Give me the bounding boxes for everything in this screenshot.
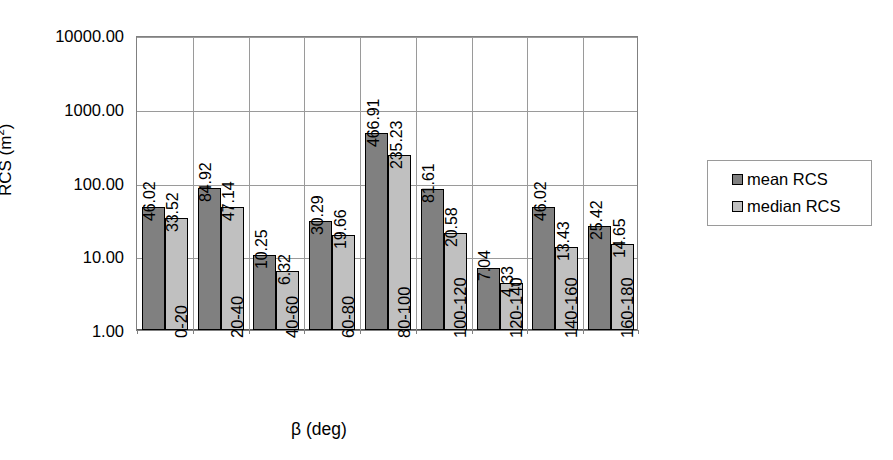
y-axis-tick-label: 1.00 — [92, 322, 124, 341]
bar-value-label: 84.92 — [197, 162, 215, 202]
x-axis-tick-mark — [527, 330, 528, 334]
x-axis-category-label: 140-160 — [562, 277, 581, 338]
gridline-vertical — [249, 37, 250, 330]
bar-value-label: 466.91 — [365, 99, 383, 147]
bar-value-label: 235.23 — [388, 121, 406, 169]
gridline-vertical — [304, 37, 305, 330]
bar-mean-rcs — [588, 226, 611, 330]
legend-label-mean-rcs: mean RCS — [747, 170, 828, 189]
bar-value-label: 46.02 — [532, 182, 550, 222]
legend-swatch-mean-rcs — [732, 174, 743, 185]
bar-value-label: 33.52 — [164, 192, 182, 232]
y-axis-title: RCS (m2) — [0, 123, 16, 196]
bar-value-label: 19.66 — [332, 209, 350, 249]
bar-mean-rcs — [142, 207, 165, 330]
bar-value-label: 47.14 — [220, 181, 238, 221]
x-axis-tick-mark — [472, 330, 473, 334]
chart-figure: RCS (m2) 1.0010.00100.001000.0010000.00 … — [0, 0, 893, 460]
x-axis-category-label: 60-80 — [339, 296, 358, 338]
bar-mean-rcs — [198, 188, 221, 330]
x-axis-tick-mark — [249, 330, 250, 334]
y-axis-title-superscript: 2 — [0, 129, 6, 135]
y-axis-title-text: RCS (m — [0, 136, 15, 196]
x-axis-category-label: 0-20 — [172, 305, 191, 338]
legend-swatch-median-rcs — [732, 201, 743, 212]
bar-value-label: 14.65 — [611, 218, 629, 258]
bar-value-label: 46.02 — [141, 182, 159, 222]
gridline-horizontal — [137, 111, 637, 112]
y-axis-tick-label: 1000.00 — [64, 100, 124, 119]
bar-value-label: 20.58 — [443, 208, 461, 248]
bar-value-label: 81.61 — [420, 163, 438, 203]
gridline-vertical — [360, 37, 361, 330]
gridline-vertical — [527, 37, 528, 330]
x-axis-category-label: 160-180 — [618, 277, 637, 338]
x-axis-tick-mark — [416, 330, 417, 334]
x-axis-tick-mark — [304, 330, 305, 334]
bar-value-label: 25.42 — [588, 201, 606, 241]
x-axis-tick-mark — [583, 330, 584, 334]
y-axis-tick-label: 10.00 — [83, 248, 124, 267]
gridline-vertical — [193, 37, 194, 330]
x-axis-category-label: 40-60 — [283, 296, 302, 338]
legend-label-median-rcs: median RCS — [747, 197, 841, 216]
y-axis: RCS (m2) 1.0010.00100.001000.0010000.00 — [0, 0, 130, 460]
bar-value-label: 7.04 — [476, 251, 494, 282]
chart-legend: mean RCS median RCS — [707, 160, 872, 226]
bar-value-label: 10.25 — [253, 230, 271, 270]
x-axis-title: β (deg) — [0, 419, 893, 440]
bar-mean-rcs — [421, 189, 444, 330]
x-axis-category-label: 100-120 — [451, 277, 470, 338]
gridline-vertical — [472, 37, 473, 330]
x-axis-category-label: 120-140 — [507, 277, 526, 338]
gridline-vertical — [416, 37, 417, 330]
x-axis-tick-mark — [638, 330, 639, 334]
x-axis-category-label: 20-40 — [228, 296, 247, 338]
x-axis-tick-mark — [137, 330, 138, 334]
y-axis-tick-label: 100.00 — [74, 174, 124, 193]
bar-mean-rcs — [309, 221, 332, 330]
bar-mean-rcs — [365, 133, 388, 330]
x-axis-category-label: 80-100 — [395, 287, 414, 338]
x-axis-tick-mark — [193, 330, 194, 334]
bar-mean-rcs — [532, 207, 555, 330]
gridline-horizontal — [137, 37, 637, 38]
gridline-vertical — [583, 37, 584, 330]
bar-value-label: 13.43 — [555, 221, 573, 261]
y-axis-tick-label: 10000.00 — [55, 27, 124, 46]
bar-value-label: 30.29 — [309, 195, 327, 235]
legend-item-mean-rcs: mean RCS — [732, 170, 828, 189]
bar-value-label: 6.32 — [276, 254, 294, 285]
legend-item-median-rcs: median RCS — [732, 197, 841, 216]
x-axis-tick-mark — [360, 330, 361, 334]
y-axis-title-paren: ) — [0, 123, 15, 129]
